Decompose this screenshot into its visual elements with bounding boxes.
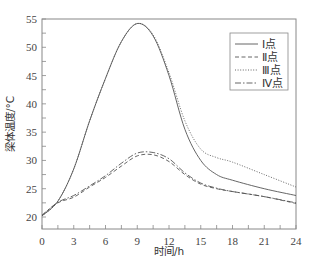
y-axis-ticks: 2025303540455055 xyxy=(26,13,46,223)
y-tick-label: 35 xyxy=(26,126,38,138)
y-tick-label: 55 xyxy=(26,13,38,25)
legend: Ⅰ点Ⅱ点Ⅲ点Ⅳ点 xyxy=(230,33,288,90)
x-tick-label: 3 xyxy=(71,235,77,247)
y-tick-label: 45 xyxy=(26,70,38,82)
legend-label: Ⅳ点 xyxy=(262,77,283,90)
temperature-chart: 03691215182124 2025303540455055 Ⅰ点Ⅱ点Ⅲ点Ⅳ点… xyxy=(0,0,309,273)
series-line-2 xyxy=(42,154,296,215)
x-tick-label: 15 xyxy=(195,235,207,247)
legend-label: Ⅲ点 xyxy=(262,64,281,77)
y-tick-label: 50 xyxy=(26,41,38,53)
x-tick-label: 24 xyxy=(291,235,303,247)
legend-label: Ⅰ点 xyxy=(262,38,276,51)
x-tick-label: 18 xyxy=(227,235,239,247)
legend-label: Ⅱ点 xyxy=(262,51,278,64)
y-axis-title: 梁体温度/°C xyxy=(4,96,16,152)
x-tick-label: 9 xyxy=(135,235,141,247)
x-tick-label: 6 xyxy=(103,235,109,247)
y-tick-label: 25 xyxy=(26,183,38,195)
y-tick-label: 30 xyxy=(26,154,38,166)
x-axis-title: 时间/h xyxy=(154,245,184,257)
x-tick-label: 21 xyxy=(259,235,270,247)
x-tick-label: 0 xyxy=(39,235,45,247)
x-axis-ticks: 03691215182124 xyxy=(39,225,302,247)
y-tick-label: 20 xyxy=(26,211,38,223)
y-tick-label: 40 xyxy=(26,98,38,110)
